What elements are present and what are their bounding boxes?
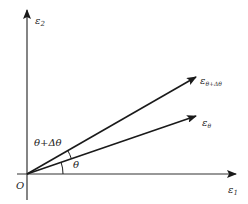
angle-arc-delta-theta xyxy=(68,151,72,159)
diagram-canvas: ε2 ε1 O εθ+Δθ εθ θ+Δθ θ xyxy=(0,0,248,204)
vector-label-theta-plus-delta: εθ+Δθ xyxy=(200,75,222,87)
angle-label-theta-plus-delta: θ+Δθ xyxy=(34,137,62,148)
x-axis-label: ε1 xyxy=(228,184,238,197)
angle-label-theta: θ xyxy=(73,159,79,170)
vector-label-theta: εθ xyxy=(202,117,211,129)
origin-label: O xyxy=(16,180,24,191)
angle-arc-theta xyxy=(61,162,63,174)
y-axis-label: ε2 xyxy=(35,15,45,28)
